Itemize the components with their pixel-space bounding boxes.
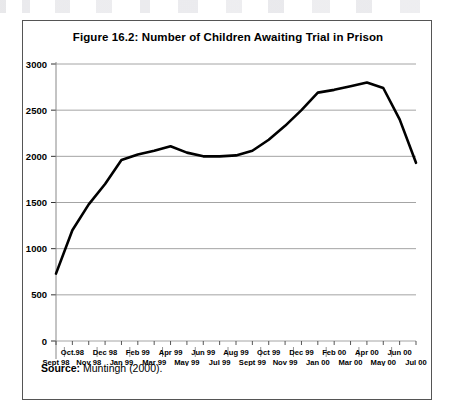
x-tick-label-top: Dec 98 (93, 348, 118, 357)
gridlines-group (51, 64, 416, 341)
x-tick-label-bottom: Nov 99 (273, 358, 298, 366)
x-tick-marks-group (56, 341, 416, 345)
x-tick-label-top: Apr 99 (159, 348, 183, 357)
x-tick-label-bottom: May 99 (174, 358, 199, 366)
figure-container: Figure 16.2: Number of Children Awaiting… (22, 20, 432, 400)
source-label: Source: (41, 362, 80, 374)
x-tick-label-top: Aug 99 (223, 348, 248, 357)
x-tick-label-top: Oct.98 (61, 348, 84, 357)
series-children-awaiting-trial (56, 82, 416, 273)
x-tick-label-top: Oct 99 (257, 348, 280, 357)
data-series-line (56, 82, 416, 273)
y-tick-label: 1500 (26, 197, 47, 208)
y-tick-labels-group: 050010001500200025003000 (26, 59, 47, 347)
scan-artifact-strip (0, 0, 455, 13)
x-tick-label-top: Feb 00 (322, 348, 346, 357)
line-chart: 050010001500200025003000 Oct.98Dec 98Feb… (23, 21, 433, 366)
x-tick-label-bottom: May 00 (371, 358, 396, 366)
y-tick-label: 2500 (26, 105, 47, 116)
x-tick-label-top: Feb 99 (126, 348, 150, 357)
x-tick-labels-top-group: Oct.98Dec 98Feb 99Apr 99Jun 99Aug 99Oct … (61, 348, 412, 357)
y-tick-label: 500 (31, 289, 47, 300)
y-tick-label: 2000 (26, 151, 47, 162)
y-tick-label: 3000 (26, 59, 47, 70)
x-tick-label-top: Jun 99 (191, 348, 215, 357)
x-tick-label-bottom: Mar 00 (339, 358, 363, 366)
x-tick-label-bottom: Sept 99 (239, 358, 266, 366)
x-tick-label-bottom: Jan 00 (306, 358, 330, 366)
x-tick-label-bottom: Jul 00 (405, 358, 427, 366)
source-text: Muntingh (2000). (83, 362, 162, 374)
source-caption: Source: Muntingh (2000). (41, 362, 162, 374)
x-tick-label-top: Jun 00 (388, 348, 412, 357)
y-tick-label: 1000 (26, 243, 47, 254)
y-tick-label: 0 (42, 336, 47, 347)
x-tick-label-bottom: Jul 99 (209, 358, 231, 366)
x-tick-label-top: Dec 99 (289, 348, 314, 357)
x-tick-label-top: Apr 00 (355, 348, 379, 357)
